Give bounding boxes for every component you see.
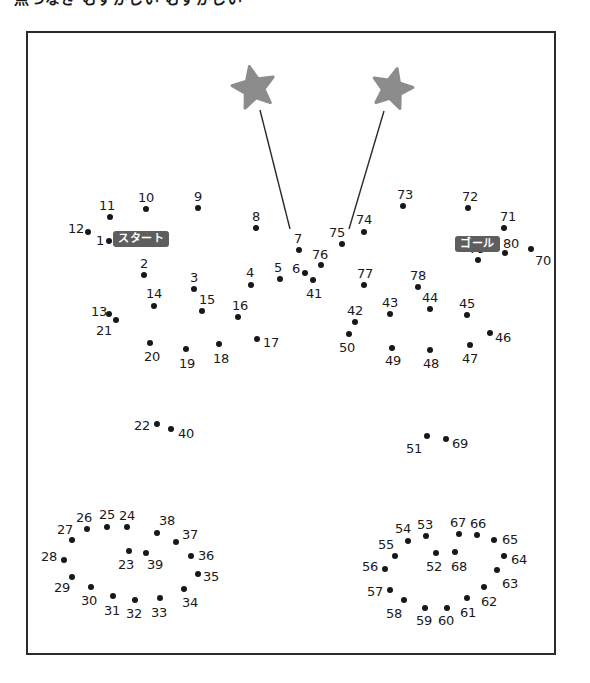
dot-number-33: 33: [151, 606, 167, 619]
dot-number-44: 44: [422, 291, 438, 304]
puzzle-dot-33[interactable]: [157, 595, 163, 601]
puzzle-dot-38[interactable]: [154, 530, 160, 536]
dot-number-76: 76: [312, 248, 328, 261]
puzzle-dot-14[interactable]: [151, 303, 157, 309]
puzzle-dot-1[interactable]: [106, 238, 112, 244]
puzzle-dot-76[interactable]: [318, 262, 324, 268]
puzzle-dot-50[interactable]: [346, 331, 352, 337]
puzzle-dot-72[interactable]: [465, 205, 471, 211]
puzzle-dot-2[interactable]: [141, 272, 147, 278]
puzzle-dot-21[interactable]: [113, 317, 119, 323]
puzzle-dot-12[interactable]: [85, 229, 91, 235]
puzzle-dot-80[interactable]: [502, 250, 508, 256]
puzzle-dot-27[interactable]: [69, 537, 75, 543]
puzzle-dot-6[interactable]: [302, 270, 308, 276]
dot-number-13: 13: [91, 305, 107, 318]
puzzle-page: 点つなぎ むずかしい むずかしい 12345678910111213141516…: [0, 0, 590, 683]
puzzle-dot-8[interactable]: [253, 225, 259, 231]
puzzle-dot-26[interactable]: [84, 526, 90, 532]
dot-number-57: 57: [367, 585, 383, 598]
puzzle-dot-47[interactable]: [467, 342, 473, 348]
puzzle-dot-28[interactable]: [61, 557, 67, 563]
puzzle-dot-15[interactable]: [199, 308, 205, 314]
puzzle-dot-5[interactable]: [277, 276, 283, 282]
dot-number-42: 42: [347, 304, 363, 317]
puzzle-dot-25[interactable]: [104, 524, 110, 530]
puzzle-dot-74[interactable]: [361, 229, 367, 235]
dot-number-48: 48: [423, 357, 439, 370]
dot-number-29: 29: [54, 581, 70, 594]
puzzle-dot-57[interactable]: [387, 587, 393, 593]
puzzle-dot-3[interactable]: [191, 286, 197, 292]
puzzle-dot-30[interactable]: [88, 584, 94, 590]
puzzle-dot-58[interactable]: [401, 597, 407, 603]
puzzle-dot-51[interactable]: [424, 433, 430, 439]
puzzle-dot-49[interactable]: [389, 345, 395, 351]
dot-number-66: 66: [470, 517, 486, 530]
puzzle-dot-65[interactable]: [491, 537, 497, 543]
puzzle-dot-20[interactable]: [147, 340, 153, 346]
dot-number-45: 45: [459, 297, 475, 310]
puzzle-dot-77[interactable]: [361, 282, 367, 288]
puzzle-dot-31[interactable]: [110, 593, 116, 599]
puzzle-dot-43[interactable]: [387, 311, 393, 317]
puzzle-dot-4[interactable]: [248, 282, 254, 288]
dot-number-50: 50: [339, 341, 355, 354]
puzzle-dot-18[interactable]: [216, 341, 222, 347]
puzzle-dot-16[interactable]: [235, 314, 241, 320]
puzzle-dot-56[interactable]: [382, 566, 388, 572]
puzzle-dot-78[interactable]: [415, 284, 421, 290]
puzzle-dot-52[interactable]: [433, 550, 439, 556]
puzzle-dot-24[interactable]: [124, 524, 130, 530]
puzzle-dot-11[interactable]: [107, 214, 113, 220]
dot-number-7: 7: [294, 232, 302, 245]
puzzle-dot-37[interactable]: [173, 539, 179, 545]
puzzle-dot-41[interactable]: [310, 277, 316, 283]
puzzle-dot-35[interactable]: [195, 571, 201, 577]
puzzle-dot-39[interactable]: [143, 550, 149, 556]
puzzle-dot-45[interactable]: [464, 312, 470, 318]
puzzle-dot-44[interactable]: [427, 306, 433, 312]
puzzle-dot-17[interactable]: [254, 336, 260, 342]
puzzle-dot-34[interactable]: [181, 586, 187, 592]
puzzle-dot-48[interactable]: [427, 347, 433, 353]
puzzle-dot-75[interactable]: [339, 241, 345, 247]
puzzle-dot-36[interactable]: [188, 553, 194, 559]
puzzle-dot-73[interactable]: [400, 203, 406, 209]
puzzle-dot-22[interactable]: [154, 421, 160, 427]
puzzle-dot-7[interactable]: [296, 247, 302, 253]
puzzle-dot-71[interactable]: [501, 225, 507, 231]
puzzle-dot-59[interactable]: [422, 605, 428, 611]
puzzle-dot-23[interactable]: [126, 548, 132, 554]
puzzle-dot-70[interactable]: [528, 246, 534, 252]
dot-number-75: 75: [329, 226, 345, 239]
puzzle-dot-67[interactable]: [456, 531, 462, 537]
goal-label: ゴール: [455, 236, 500, 252]
puzzle-dot-61[interactable]: [464, 595, 470, 601]
puzzle-dot-46[interactable]: [487, 330, 493, 336]
dot-number-70: 70: [535, 254, 551, 267]
dot-number-15: 15: [199, 293, 215, 306]
puzzle-dot-64[interactable]: [501, 553, 507, 559]
puzzle-dot-54[interactable]: [405, 538, 411, 544]
puzzle-dot-60[interactable]: [444, 605, 450, 611]
puzzle-dot-62[interactable]: [481, 584, 487, 590]
puzzle-dot-53[interactable]: [423, 533, 429, 539]
puzzle-dot-55[interactable]: [392, 553, 398, 559]
dot-number-30: 30: [81, 594, 97, 607]
dot-number-16: 16: [232, 299, 248, 312]
puzzle-dot-32[interactable]: [132, 597, 138, 603]
dot-number-47: 47: [462, 352, 478, 365]
puzzle-dot-66[interactable]: [474, 532, 480, 538]
puzzle-dot-10[interactable]: [143, 206, 149, 212]
dot-number-12: 12: [68, 222, 84, 235]
puzzle-dot-69[interactable]: [443, 436, 449, 442]
puzzle-dot-63[interactable]: [494, 567, 500, 573]
puzzle-dot-9[interactable]: [195, 205, 201, 211]
puzzle-dot-19[interactable]: [183, 346, 189, 352]
puzzle-dot-79[interactable]: [475, 257, 481, 263]
puzzle-dot-68[interactable]: [452, 549, 458, 555]
puzzle-dot-42[interactable]: [352, 319, 358, 325]
puzzle-dot-40[interactable]: [168, 426, 174, 432]
dot-number-59: 59: [416, 614, 432, 627]
